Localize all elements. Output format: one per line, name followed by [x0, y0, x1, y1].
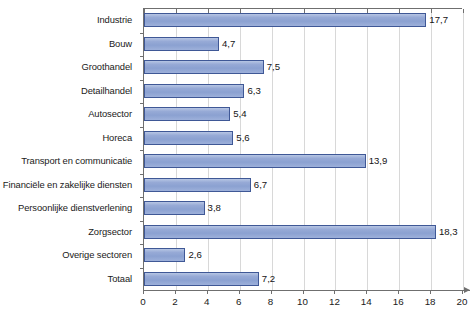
x-axis-tick-label: 14 [361, 296, 372, 307]
plot-area: 17,74,77,56,35,45,613,96,73,818,32,67,2 [143, 8, 462, 290]
category-label: Totaal [108, 267, 132, 291]
bar-row: 5,6 [144, 127, 462, 151]
bar [144, 178, 251, 192]
category-label: Groothandel [82, 55, 133, 79]
x-axis-tick-label: 6 [236, 296, 241, 307]
bar [144, 107, 230, 121]
x-axis-tick-label: 16 [393, 296, 404, 307]
category-label: Bouw [109, 32, 132, 56]
bar-row: 4,7 [144, 33, 462, 57]
gridline [463, 9, 464, 290]
x-axis-tick-label: 8 [268, 296, 273, 307]
bar-value-label: 17,7 [426, 13, 448, 27]
x-axis-tick [239, 290, 240, 294]
x-axis-tick [430, 290, 431, 294]
bar-value-label: 7,5 [264, 60, 280, 74]
bar-value-label: 18,3 [436, 225, 458, 239]
bar [144, 131, 233, 145]
bar-row: 6,3 [144, 80, 462, 104]
bar [144, 225, 436, 239]
x-axis-tick-label: 12 [329, 296, 340, 307]
x-axis-tick-label: 18 [425, 296, 436, 307]
bar [144, 60, 264, 74]
x-axis-tick-label: 20 [457, 296, 468, 307]
bar-value-label: 6,3 [244, 84, 260, 98]
x-axis-tick [398, 290, 399, 294]
bar-value-label: 4,7 [219, 37, 235, 51]
x-axis-tick [334, 290, 335, 294]
x-axis-tick-label: 4 [204, 296, 209, 307]
bar-row: 13,9 [144, 150, 462, 174]
x-axis-tick-label: 2 [172, 296, 177, 307]
bar-row: 7,2 [144, 268, 462, 292]
bar [144, 84, 244, 98]
x-axis-tick-label: 0 [140, 296, 145, 307]
x-axis-tick [462, 290, 463, 294]
x-axis-ticks: 02468101214161820 [143, 290, 462, 318]
bar-row: 3,8 [144, 197, 462, 221]
bar [144, 201, 205, 215]
x-axis-arrow-icon [464, 287, 470, 293]
bar-row: 17,7 [144, 9, 462, 33]
category-label: Transport en communicatie [21, 149, 132, 173]
category-label: Autosector [88, 102, 132, 126]
bar-row: 2,6 [144, 244, 462, 268]
category-label: Persoonlijke dienstverlening [18, 196, 132, 220]
category-label: Zorgsector [88, 220, 132, 244]
bar-value-label: 3,8 [205, 201, 221, 215]
x-axis-tick [175, 290, 176, 294]
category-label: Financiële en zakelijke diensten [3, 173, 132, 197]
x-axis-tick [303, 290, 304, 294]
x-axis-tick [143, 290, 144, 294]
category-label: Industrie [97, 8, 132, 32]
bar-value-label: 13,9 [366, 154, 388, 168]
category-label: Detailhandel [81, 79, 132, 103]
category-label: Horeca [102, 126, 132, 150]
bar-value-label: 5,4 [230, 107, 246, 121]
x-axis-tick-label: 10 [297, 296, 308, 307]
bar-value-label: 5,6 [233, 131, 249, 145]
x-axis-tick [207, 290, 208, 294]
bar-row: 6,7 [144, 174, 462, 198]
bar [144, 13, 426, 27]
bar [144, 248, 185, 262]
bar-value-label: 7,2 [259, 272, 275, 286]
category-axis-labels: IndustrieBouwGroothandelDetailhandelAuto… [0, 8, 138, 290]
x-axis-tick [366, 290, 367, 294]
top-axis-tick [463, 9, 464, 13]
bar-row: 7,5 [144, 56, 462, 80]
bar-row: 5,4 [144, 103, 462, 127]
bar [144, 154, 366, 168]
x-axis-tick [271, 290, 272, 294]
bar-value-label: 2,6 [185, 248, 201, 262]
category-label: Overige sectoren [62, 243, 132, 267]
bar-row: 18,3 [144, 221, 462, 245]
bar-chart: IndustrieBouwGroothandelDetailhandelAuto… [0, 0, 471, 321]
bar-value-label: 6,7 [251, 178, 267, 192]
bar [144, 37, 219, 51]
bar [144, 272, 259, 286]
